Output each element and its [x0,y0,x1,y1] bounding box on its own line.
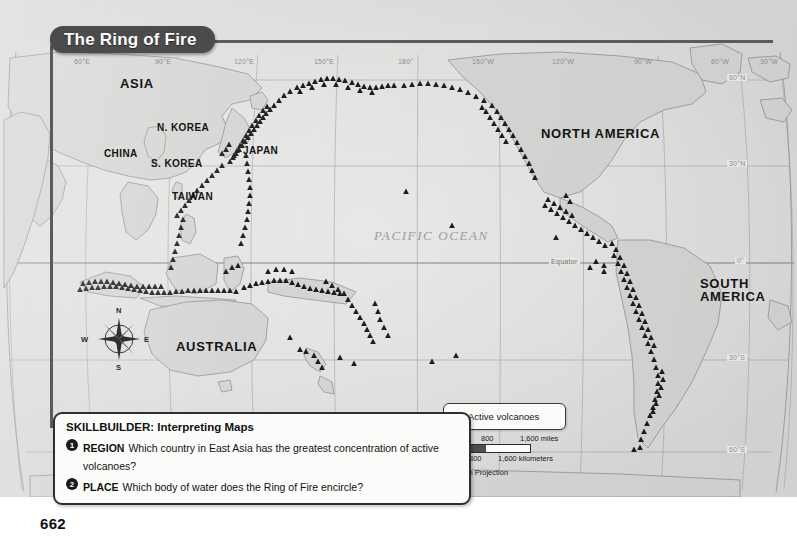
graticule-lon-30w: 30°W [760,58,778,65]
label-australia: AUSTRALIA [176,340,257,353]
label-china: CHINA [104,148,138,159]
graticule-lon-180: 180° [398,58,413,65]
question-keyword-region: REGION [83,442,124,454]
label-taiwan: TAIWAN [172,191,213,202]
label-equator: Equator [549,258,580,265]
skillbuilder-box: SKILLBUILDER: Interpreting Maps 1 REGION… [53,412,471,505]
label-pacific-ocean: PACIFIC OCEAN [374,228,489,244]
compass-west-label: W [81,335,88,344]
scale-miles-mid: 800 [481,434,494,443]
graticule-lat-30n: 30°N [727,160,747,167]
question-text-1: Which country in East Asia has the great… [83,442,439,472]
graticule-lat-60s: 60°S [727,446,747,453]
graticule-lon-60w: 60°W [711,58,729,65]
graticule-lon-60e: 60°E [74,58,90,65]
scale-segment-light [486,445,530,452]
question-number-badge-1: 1 [66,439,78,451]
graticule-lon-120w: 120°W [552,58,574,65]
scale-km-end: 1,600 kilometers [498,454,553,463]
label-north-america: NORTH AMERICA [541,127,660,140]
question-text-2: Which body of water does the Ring of Fir… [123,481,363,493]
label-south-america-line1: SOUTH AMERICA [700,277,797,303]
label-north-america-line1: NORTH AMERICA [541,127,660,140]
question-body-1: REGIONWhich country in East Asia has the… [83,438,458,474]
graticule-lon-150w: 150°W [472,58,494,65]
compass-rose-graphic [88,308,150,370]
label-south-america: SOUTH AMERICA [700,277,797,303]
page-footer-strip [0,497,797,558]
compass-north-label: N [116,306,121,315]
graticule-lat-0: 0° [735,257,746,264]
label-asia: ASIA [120,77,154,90]
skillbuilder-title: SKILLBUILDER: Interpreting Maps [66,421,458,433]
graticule-lon-90w: 90°W [634,58,652,65]
skillbuilder-question-1: 1 REGIONWhich country in East Asia has t… [66,438,458,474]
label-north-korea: N. KOREA [157,122,209,133]
map-title-banner: The Ring of Fire [50,26,215,53]
compass-east-label: E [144,335,149,344]
compass-rose: N E S W [88,308,150,370]
label-south-korea: S. KOREA [151,158,203,169]
label-japan: JAPAN [243,145,278,156]
question-body-2: PLACEWhich body of water does the Ring o… [83,477,458,495]
legend-label-active-volcanoes: Active volcanoes [468,411,539,422]
graticule-lat-30s: 30°S [727,354,747,361]
scale-miles-end: 1,600 miles [520,434,558,443]
graticule-lat-60n: 60°N [727,74,747,81]
question-number-badge-2: 2 [66,478,78,490]
compass-south-label: S [116,363,121,372]
map-title: The Ring of Fire [64,30,197,50]
map-page: ASIA NORTH AMERICA SOUTH AMERICA AUSTRAL… [0,0,797,558]
page-number: 662 [40,515,66,532]
graticule-lon-150e: 150°E [314,58,334,65]
question-keyword-place: PLACE [83,481,119,493]
graticule-lon-120e: 120°E [234,58,254,65]
graticule-lon-90e: 90°E [155,58,171,65]
skillbuilder-question-2: 2 PLACEWhich body of water does the Ring… [66,477,458,495]
